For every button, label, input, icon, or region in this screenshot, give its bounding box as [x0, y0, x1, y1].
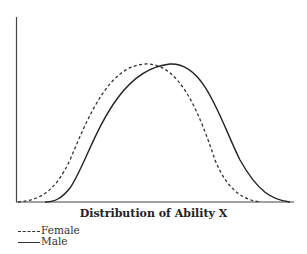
solid-line-icon	[18, 242, 40, 243]
dashed-line-icon	[18, 231, 40, 232]
female-curve	[18, 64, 260, 202]
legend-male: Male	[18, 236, 68, 247]
chart: Distribution of Ability X Female Male	[0, 0, 307, 254]
x-axis-label: Distribution of Ability X	[0, 207, 307, 220]
